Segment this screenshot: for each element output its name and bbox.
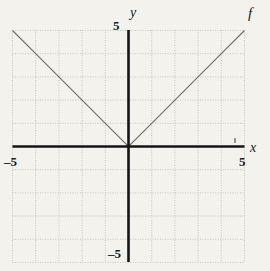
y-axis-label: y [130,6,136,20]
coordinate-plane-svg [0,0,270,271]
x-axis-tick-label-left: –5 [4,155,17,168]
figure-background [0,0,270,271]
y-axis-tick-label-bottom: –5 [108,247,121,260]
x-axis-label: x [250,141,256,155]
x-axis-tick-label-right: 5 [239,155,246,168]
function-label-f: f [248,6,252,21]
y-axis-tick-label-top: 5 [113,19,120,32]
graph-figure: y x f 5 –5 –5 5 [0,0,270,271]
